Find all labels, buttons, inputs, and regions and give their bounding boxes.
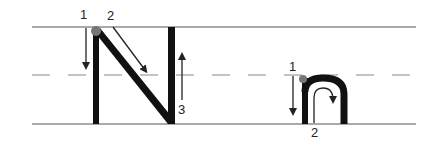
N-diagonal (93, 28, 175, 124)
n-start-dot (299, 75, 307, 83)
N-left-stem (93, 28, 99, 124)
handwriting-diagram: 1 2 3 1 2 (0, 0, 430, 154)
N-start-dot (91, 26, 101, 36)
N-stroke-3-label: 3 (178, 102, 185, 117)
letter-N: 1 2 3 (80, 7, 185, 124)
N-stroke-1-label: 1 (80, 7, 87, 22)
letter-n: 1 2 (289, 59, 344, 140)
n-arch (305, 78, 344, 124)
n-stroke-2-label: 2 (311, 125, 318, 140)
N-stroke-2-arrow (113, 27, 145, 70)
n-stroke-2-arrow (314, 88, 333, 123)
N-stroke-2-label: 2 (107, 8, 114, 23)
N-right-stem (168, 27, 175, 124)
n-stroke-1-label: 1 (289, 59, 296, 74)
